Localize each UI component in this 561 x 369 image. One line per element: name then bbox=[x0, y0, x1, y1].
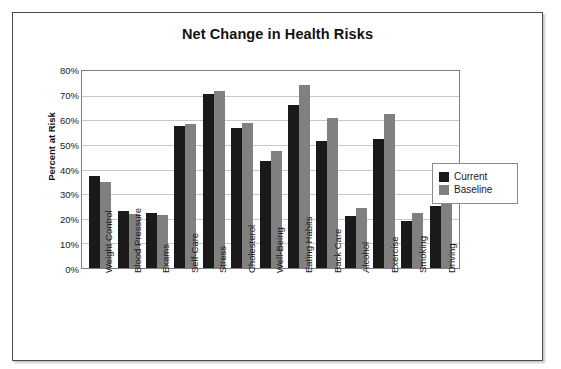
x-axis-category: Eating Habits bbox=[285, 271, 314, 363]
bar-current bbox=[203, 94, 214, 268]
bar-current bbox=[345, 216, 356, 268]
legend-item[interactable]: Current bbox=[439, 171, 511, 182]
y-axis-tick-label: 60% bbox=[31, 114, 79, 125]
x-axis-label: Exams bbox=[160, 244, 171, 273]
x-axis-label: Blood Pressure bbox=[132, 208, 143, 273]
y-axis-tick-label: 10% bbox=[31, 239, 79, 250]
y-axis-tick-label: 50% bbox=[31, 139, 79, 150]
x-axis-category: Blood Pressure bbox=[114, 271, 143, 363]
bar-baseline bbox=[214, 91, 225, 268]
x-axis-category: Alcohol bbox=[342, 271, 371, 363]
y-axis-tick-label: 70% bbox=[31, 89, 79, 100]
x-axis-category: Smoking bbox=[399, 271, 428, 363]
x-axis-label: Weight Control bbox=[103, 210, 114, 273]
x-axis-category: Cholesterol bbox=[228, 271, 257, 363]
bar-current bbox=[174, 126, 185, 268]
x-axis-label: Smoking bbox=[417, 236, 428, 273]
x-axis-category: Exams bbox=[142, 271, 171, 363]
bar-current bbox=[373, 139, 384, 268]
x-axis-label: Stress bbox=[217, 246, 228, 273]
y-axis-tick-label: 40% bbox=[31, 164, 79, 175]
x-axis-category: Driving bbox=[427, 271, 456, 363]
plot-wrapper: Percent at Risk 80%70%60%50%40%30%20%10%… bbox=[13, 13, 542, 360]
x-axis-label: Driving bbox=[446, 243, 457, 273]
x-axis-category: Stress bbox=[199, 271, 228, 363]
x-axis-label: Back Care bbox=[332, 229, 343, 273]
bar-current bbox=[288, 105, 299, 268]
bar-current bbox=[118, 211, 129, 268]
x-axis-category: Back Care bbox=[313, 271, 342, 363]
y-axis-tick-label: 30% bbox=[31, 189, 79, 200]
x-axis-labels: Weight ControlBlood PressureExamsSelf-Ca… bbox=[81, 271, 460, 363]
y-axis-ticks: 80%70%60%50%40%30%20%10%0% bbox=[23, 70, 79, 269]
y-axis-tick-label: 80% bbox=[31, 65, 79, 76]
x-axis-label: Self-Care bbox=[189, 233, 200, 273]
y-axis-tick-label: 20% bbox=[31, 214, 79, 225]
bar-current bbox=[260, 161, 271, 268]
x-axis-label: Exercise bbox=[389, 237, 400, 273]
legend-label: Current bbox=[454, 171, 487, 182]
bar-group bbox=[200, 71, 228, 268]
legend-swatch-current bbox=[439, 172, 449, 182]
legend-item[interactable]: Baseline bbox=[439, 184, 511, 195]
chart-frame: Net Change in Health Risks Percent at Ri… bbox=[12, 12, 543, 361]
bar-current bbox=[430, 206, 441, 268]
bar-group bbox=[143, 71, 171, 268]
bar-current bbox=[401, 221, 412, 268]
legend-swatch-baseline bbox=[439, 185, 449, 195]
x-axis-label: Cholesterol bbox=[246, 225, 257, 273]
x-axis-category: Weight Control bbox=[85, 271, 114, 363]
bar-current bbox=[146, 213, 157, 268]
x-axis-label: Well-Being bbox=[274, 227, 285, 273]
bar-current bbox=[231, 128, 242, 268]
x-axis-category: Self-Care bbox=[171, 271, 200, 363]
bar-group bbox=[342, 71, 370, 268]
x-axis-category: Exercise bbox=[370, 271, 399, 363]
bar-current bbox=[316, 141, 327, 268]
chart-legend: CurrentBaseline bbox=[432, 163, 518, 204]
x-axis-label: Alcohol bbox=[360, 242, 371, 273]
x-axis-category: Well-Being bbox=[256, 271, 285, 363]
legend-label: Baseline bbox=[454, 184, 492, 195]
bar-current bbox=[89, 176, 100, 268]
x-axis-label: Eating Habits bbox=[303, 216, 314, 273]
y-axis-tick-label: 0% bbox=[31, 264, 79, 275]
